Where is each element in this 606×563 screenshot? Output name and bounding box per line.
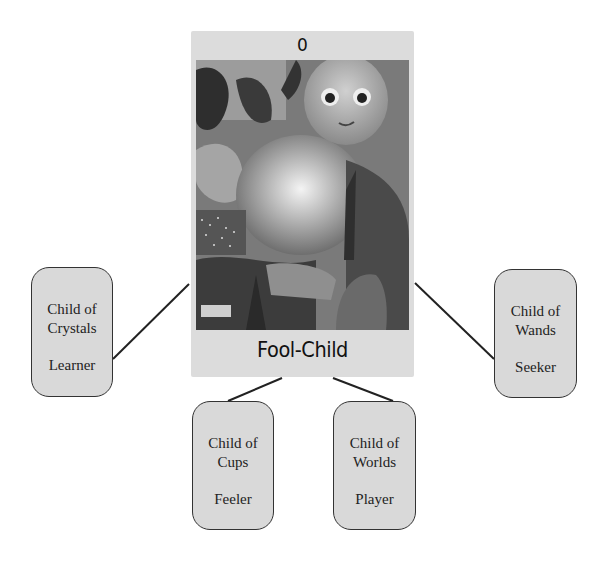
node-role: Player bbox=[334, 490, 415, 509]
node-child-of-worlds: Child of Worlds Player bbox=[333, 401, 416, 530]
node-child-of-wands: Child of Wands Seeker bbox=[494, 269, 577, 398]
connector-cups bbox=[228, 378, 282, 401]
node-name-line2: Wands bbox=[495, 321, 576, 340]
collage-image bbox=[196, 60, 409, 330]
node-name-line1: Child of bbox=[193, 434, 273, 453]
node-name-line2: Cups bbox=[193, 453, 273, 472]
node-name: Child of Cups bbox=[193, 434, 273, 472]
node-role: Feeler bbox=[193, 490, 273, 509]
node-name: Child of Worlds bbox=[334, 434, 415, 472]
node-name-line2: Worlds bbox=[334, 453, 415, 472]
node-child-of-crystals: Child of Crystals Learner bbox=[31, 267, 113, 397]
node-name: Child of Wands bbox=[495, 302, 576, 340]
node-role: Seeker bbox=[495, 358, 576, 377]
node-name-line1: Child of bbox=[495, 302, 576, 321]
node-child-of-cups: Child of Cups Feeler bbox=[192, 401, 274, 530]
node-name: Child of Crystals bbox=[32, 300, 112, 338]
card-title: Fool-Child bbox=[204, 337, 400, 362]
connector-worlds bbox=[333, 378, 393, 401]
card-number: 0 bbox=[191, 35, 414, 55]
connector-wands bbox=[415, 283, 494, 359]
node-name-line1: Child of bbox=[32, 300, 112, 319]
tarot-card: 0 bbox=[191, 31, 414, 377]
connector-crystals bbox=[113, 284, 189, 359]
node-name-line2: Crystals bbox=[32, 319, 112, 338]
card-artwork bbox=[196, 60, 409, 330]
node-role: Learner bbox=[32, 356, 112, 375]
node-name-line1: Child of bbox=[334, 434, 415, 453]
